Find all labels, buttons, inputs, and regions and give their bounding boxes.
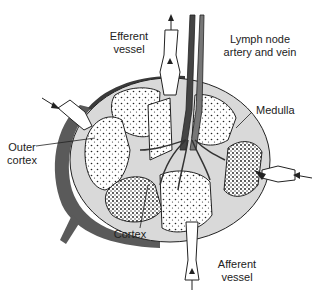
label-efferent-vessel: Efferent vessel xyxy=(104,30,154,56)
label-afferent-vessel: Afferent vessel xyxy=(212,258,262,284)
afferent-vessel-right xyxy=(262,166,295,182)
lobule-lower-left xyxy=(105,177,162,222)
label-lymph-node-artery-vein: Lymph node artery and vein xyxy=(218,33,302,59)
label-medulla: Medulla xyxy=(256,104,306,117)
lobule-center xyxy=(148,98,172,160)
label-cortex: Cortex xyxy=(108,228,152,241)
label-outer-cortex: Outer cortex xyxy=(2,141,42,167)
